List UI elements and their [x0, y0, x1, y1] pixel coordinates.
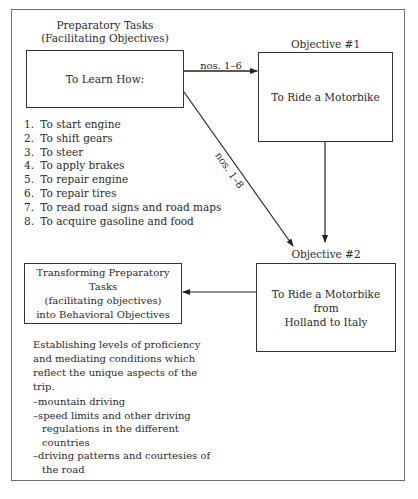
connector-arrows [0, 0, 418, 499]
arrow-prep-to-obj2 [184, 92, 293, 246]
arrow-label-nos-1-6: nos. 1–6 [196, 59, 246, 72]
